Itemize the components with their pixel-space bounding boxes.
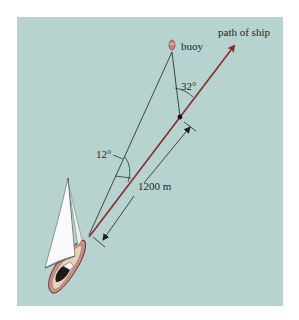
angle-32-label: 32° (181, 80, 196, 92)
sailboat-icon (45, 178, 86, 293)
ship-position-dot (178, 115, 183, 120)
sightline-final (172, 52, 180, 117)
angle-12-label: 12° (96, 148, 111, 160)
distance-label: 1200 m (138, 180, 172, 192)
ship-buoy-diagram: path of ship buoy 32° 12° 1200 m (0, 0, 299, 320)
angle-arc-12 (125, 157, 130, 182)
buoy-label: buoy (181, 40, 204, 52)
buoy-icon (169, 40, 175, 50)
path-of-ship-label: path of ship (218, 26, 270, 38)
